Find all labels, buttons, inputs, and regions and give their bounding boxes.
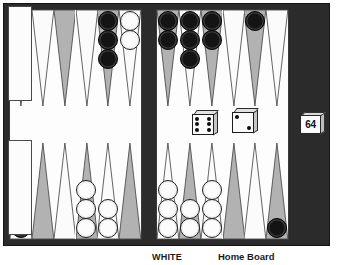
die-pip bbox=[207, 128, 211, 132]
checker-black-point-8[interactable] bbox=[180, 30, 200, 50]
board-point-3[interactable] bbox=[54, 10, 76, 106]
die-left-pips-value-6 bbox=[192, 114, 214, 135]
die-pip bbox=[207, 117, 211, 121]
checker-black-point-8[interactable] bbox=[180, 11, 200, 31]
white-bear-off-tray[interactable] bbox=[8, 140, 32, 235]
board-point-4[interactable] bbox=[76, 10, 98, 106]
checker-white-point-6[interactable] bbox=[120, 11, 140, 31]
die-pip bbox=[247, 115, 251, 119]
black-bear-off-tray[interactable] bbox=[8, 6, 32, 101]
checker-white-point-20[interactable] bbox=[180, 218, 200, 238]
checker-black-point-9[interactable] bbox=[202, 11, 222, 31]
die-pip bbox=[241, 120, 245, 124]
home-board-label: Home Board bbox=[218, 251, 274, 262]
doubling-cube[interactable]: 64 bbox=[300, 112, 326, 135]
checker-black-point-24[interactable] bbox=[267, 218, 287, 238]
die-pip bbox=[207, 122, 211, 126]
die-right[interactable] bbox=[232, 108, 258, 134]
die-pip bbox=[247, 120, 251, 124]
die-pip bbox=[195, 117, 199, 121]
die-left[interactable] bbox=[192, 110, 218, 136]
checker-black-point-9[interactable] bbox=[202, 30, 222, 50]
die-pip bbox=[235, 120, 239, 124]
board-point-18[interactable] bbox=[119, 143, 141, 239]
die-pip bbox=[235, 126, 239, 130]
die-pip bbox=[247, 126, 251, 130]
die-right-pips-value-2 bbox=[232, 112, 254, 133]
checker-black-point-7[interactable] bbox=[158, 30, 178, 50]
checker-white-point-19[interactable] bbox=[158, 199, 178, 219]
board-point-15[interactable] bbox=[54, 143, 76, 239]
board-point-23[interactable] bbox=[244, 143, 266, 239]
board-point-2[interactable] bbox=[32, 10, 54, 106]
die-pip bbox=[241, 126, 245, 130]
right-play-area bbox=[156, 9, 289, 240]
checker-black-point-7[interactable] bbox=[158, 11, 178, 31]
center-bar[interactable] bbox=[142, 6, 156, 243]
board-point-14[interactable] bbox=[32, 143, 54, 239]
checker-white-point-20[interactable] bbox=[180, 199, 200, 219]
die-pip bbox=[241, 115, 245, 119]
doubling-cube-value: 64 bbox=[300, 115, 321, 134]
checker-white-point-21[interactable] bbox=[202, 199, 222, 219]
die-pip bbox=[201, 122, 205, 126]
board-point-12[interactable] bbox=[266, 10, 288, 106]
die-pip bbox=[235, 115, 239, 119]
checker-white-point-19[interactable] bbox=[158, 180, 178, 200]
checker-white-point-21[interactable] bbox=[202, 180, 222, 200]
die-pip bbox=[195, 122, 199, 126]
die-pip bbox=[201, 128, 205, 132]
die-pip bbox=[201, 117, 205, 121]
checker-white-point-19[interactable] bbox=[158, 218, 178, 238]
board-point-10[interactable] bbox=[223, 10, 245, 106]
die-pip bbox=[195, 128, 199, 132]
board-labels: WHITE Home Board bbox=[0, 250, 339, 265]
checker-white-point-6[interactable] bbox=[120, 30, 140, 50]
white-player-label: WHITE bbox=[152, 252, 182, 262]
checker-white-point-21[interactable] bbox=[202, 218, 222, 238]
board-point-22[interactable] bbox=[223, 143, 245, 239]
checker-black-point-8[interactable] bbox=[180, 49, 200, 69]
backgammon-board: 64 WHITE Home Board bbox=[0, 0, 339, 265]
